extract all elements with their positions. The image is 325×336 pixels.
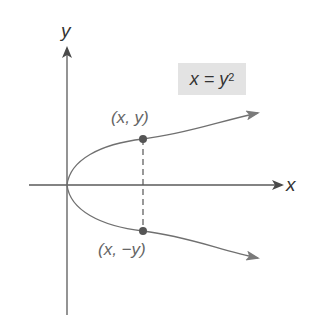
parabola-diagram: y x x = y2 (x, y) (x, −y) [0,0,325,336]
diagram-graphics [0,0,325,336]
parabola-lower-branch [67,185,258,258]
point-upper [139,135,147,143]
point-upper-label: (x, y) [111,108,149,128]
equation-exponent: 2 [228,71,234,83]
x-axis-label: x [286,174,296,196]
point-lower [139,227,147,235]
point-lower-label: (x, −y) [98,240,146,260]
equation-label: x = y2 [178,63,246,95]
y-axis-label: y [61,20,71,42]
equation-text: x = y [190,69,229,90]
parabola-upper-branch [67,113,258,185]
